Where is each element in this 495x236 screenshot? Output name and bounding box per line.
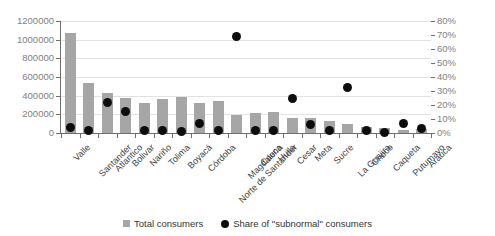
chart-container: 020000040000060000080000010000001200000 … bbox=[0, 0, 495, 236]
y-axis-right-tick bbox=[431, 77, 435, 78]
x-axis-tick bbox=[302, 134, 303, 138]
y-axis-left-tick-label: 0 bbox=[49, 128, 54, 137]
data-point bbox=[251, 126, 260, 135]
x-axis-tick bbox=[228, 134, 229, 138]
x-axis-tick bbox=[413, 134, 414, 138]
y-axis-right-tick bbox=[431, 63, 435, 64]
y-axis-left-tick bbox=[56, 77, 60, 78]
y-axis-left-tick-label: 200000 bbox=[22, 109, 54, 118]
x-axis-category-label: Valle bbox=[72, 142, 93, 163]
x-axis-tick bbox=[431, 134, 432, 138]
legend-item-total-consumers: Total consumers bbox=[123, 218, 203, 229]
x-axis-tick bbox=[98, 134, 99, 138]
x-axis-tick bbox=[191, 134, 192, 138]
x-axis-tick bbox=[376, 134, 377, 138]
x-axis-tick bbox=[80, 134, 81, 138]
data-point bbox=[66, 123, 75, 132]
y-axis-right-tick-label: 20% bbox=[437, 100, 456, 109]
y-axis-right-tick-label: 80% bbox=[437, 16, 456, 25]
data-point bbox=[158, 126, 167, 135]
x-axis-tick bbox=[172, 134, 173, 138]
y-axis-left-tick bbox=[56, 133, 60, 134]
y-axis-right-tick-label: 70% bbox=[437, 30, 456, 39]
data-point bbox=[232, 32, 241, 41]
y-axis-right-tick-label: 10% bbox=[437, 114, 456, 123]
y-axis-left-tick bbox=[56, 96, 60, 97]
y-axis-left-tick-label: 800000 bbox=[22, 53, 54, 62]
y-axis-left-tick-label: 400000 bbox=[22, 91, 54, 100]
y-axis-left-tick bbox=[56, 58, 60, 59]
x-axis-tick bbox=[135, 134, 136, 138]
y-axis-right-tick bbox=[431, 49, 435, 50]
y-axis-left-tick-label: 600000 bbox=[22, 72, 54, 81]
data-point bbox=[325, 126, 334, 135]
data-point bbox=[269, 126, 278, 135]
legend-item-subnormal-share: Share of "subnormal" consumers bbox=[221, 218, 372, 229]
x-axis-tick bbox=[209, 134, 210, 138]
chart-legend: Total consumers Share of "subnormal" con… bbox=[0, 218, 495, 229]
data-point bbox=[103, 98, 112, 107]
y-axis-left-tick bbox=[56, 114, 60, 115]
y-axis-right-tick-label: 30% bbox=[437, 86, 456, 95]
x-axis-category-label: Sucre bbox=[332, 142, 356, 166]
y-axis-left-tick-label: 1000000 bbox=[17, 35, 54, 44]
data-point bbox=[380, 128, 389, 137]
data-point bbox=[195, 119, 204, 128]
x-axis-tick bbox=[265, 134, 266, 138]
x-axis-tick bbox=[117, 134, 118, 138]
data-point bbox=[121, 107, 130, 116]
legend-label-subnormal-share: Share of "subnormal" consumers bbox=[233, 218, 372, 229]
data-point bbox=[362, 126, 371, 135]
legend-label-total-consumers: Total consumers bbox=[134, 218, 203, 229]
y-axis-right-tick bbox=[431, 105, 435, 106]
y-axis-right-tick-label: 40% bbox=[437, 72, 456, 81]
data-point bbox=[140, 126, 149, 135]
y-axis-left-tick bbox=[56, 40, 60, 41]
circle-marker-icon bbox=[221, 220, 229, 228]
y-axis-right-tick-label: 0% bbox=[437, 128, 451, 137]
y-axis-right-tick-label: 60% bbox=[437, 44, 456, 53]
x-axis-tick bbox=[320, 134, 321, 138]
point-series-subnormal-share bbox=[61, 21, 431, 133]
y-axis-right-tick bbox=[431, 21, 435, 22]
x-axis-tick bbox=[283, 134, 284, 138]
x-axis-tick bbox=[394, 134, 395, 138]
data-point bbox=[214, 126, 223, 135]
y-axis-left-tick-label: 1200000 bbox=[17, 16, 54, 25]
square-marker-icon bbox=[123, 220, 130, 227]
y-axis-right-tick bbox=[431, 119, 435, 120]
x-axis-tick bbox=[246, 134, 247, 138]
data-point bbox=[288, 94, 297, 103]
x-axis-tick bbox=[61, 134, 62, 138]
y-axis-right-tick bbox=[431, 91, 435, 92]
x-axis-tick bbox=[154, 134, 155, 138]
data-point bbox=[343, 83, 352, 92]
y-axis-left-labels: 020000040000060000080000010000001200000 bbox=[0, 0, 54, 236]
y-axis-left-tick bbox=[56, 21, 60, 22]
y-axis-right-labels: 0%10%20%30%40%50%60%70%80% bbox=[437, 0, 493, 236]
x-axis-tick bbox=[357, 134, 358, 138]
y-axis-right-tick-label: 50% bbox=[437, 58, 456, 67]
data-point bbox=[417, 124, 426, 133]
data-point bbox=[177, 127, 186, 136]
x-axis-tick bbox=[339, 134, 340, 138]
data-point bbox=[84, 126, 93, 135]
data-point bbox=[399, 119, 408, 128]
data-point bbox=[306, 120, 315, 129]
y-axis-right-tick bbox=[431, 35, 435, 36]
